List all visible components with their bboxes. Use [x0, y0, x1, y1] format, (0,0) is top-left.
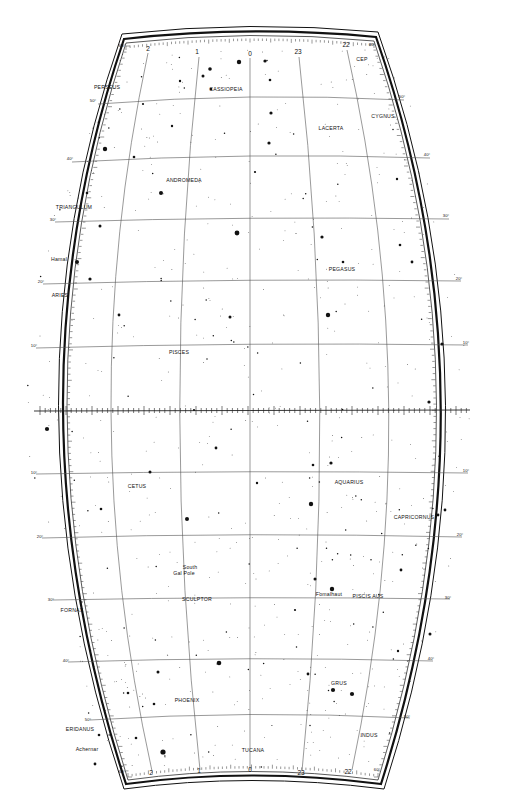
star: [230, 548, 231, 549]
star: [306, 748, 307, 749]
star: [469, 418, 470, 419]
star: [321, 84, 322, 85]
star: [137, 558, 138, 559]
star: [287, 556, 288, 557]
dec-label-right: 60°: [369, 42, 376, 47]
star: [381, 533, 383, 535]
star: [170, 300, 172, 302]
star: [341, 690, 342, 691]
star: [107, 567, 109, 569]
star: [149, 138, 150, 139]
constellation-label: ANDROMEDA: [166, 177, 202, 183]
star: [327, 281, 328, 282]
star: [312, 486, 313, 487]
star: [357, 287, 358, 288]
star: [171, 64, 172, 65]
star: [330, 737, 331, 738]
star: [108, 127, 110, 128]
star: [370, 559, 372, 561]
star: [391, 649, 392, 650]
star: [399, 509, 401, 511]
star: [298, 634, 299, 635]
star: [108, 521, 109, 522]
star: [104, 207, 105, 208]
dec-label-right: 30°: [445, 595, 452, 600]
star: [353, 589, 354, 590]
star: [249, 628, 250, 629]
star: [256, 482, 258, 484]
star: [412, 396, 413, 397]
star: [237, 278, 238, 279]
star: [116, 681, 117, 682]
star: [461, 439, 462, 440]
star: [141, 76, 143, 78]
star: [285, 103, 286, 104]
star: [235, 231, 240, 236]
star: [331, 688, 335, 692]
star: [397, 669, 398, 670]
star: [229, 316, 232, 319]
star: [272, 725, 273, 726]
dec-label-left: 60°: [119, 43, 126, 48]
constellation-label: INDUS: [360, 732, 377, 738]
star: [189, 642, 190, 643]
declination-grid: [34, 97, 470, 720]
star: [313, 219, 314, 220]
star: [230, 204, 231, 205]
star: [326, 201, 327, 202]
star: [394, 229, 395, 230]
star: [290, 684, 291, 685]
ra-labels: 21023222102322: [146, 41, 352, 776]
star: [404, 524, 405, 525]
star: [179, 92, 180, 93]
ra-label-bottom: 1: [197, 767, 201, 774]
dec-label-right: 40°: [424, 152, 431, 157]
star: [337, 183, 339, 185]
star: [90, 477, 91, 478]
star: [427, 400, 430, 403]
star: [257, 352, 259, 354]
star: [178, 448, 179, 449]
star: [372, 669, 373, 670]
star: [178, 318, 179, 319]
star: [170, 552, 171, 553]
star: [283, 315, 284, 316]
star: [309, 477, 311, 479]
star: [100, 461, 101, 462]
star: [282, 51, 283, 52]
star: [320, 297, 321, 298]
star: [221, 77, 222, 78]
star: [103, 147, 107, 151]
star: [353, 623, 355, 625]
star: [312, 626, 313, 627]
star: [160, 278, 162, 280]
star: [453, 491, 454, 492]
dec-label-left: 10°: [31, 343, 38, 348]
star: [118, 325, 119, 326]
star: [250, 326, 251, 327]
star: [421, 641, 422, 642]
star: [127, 396, 129, 398]
star: [309, 725, 311, 727]
star: [40, 276, 42, 278]
star: [121, 327, 122, 328]
star: [319, 750, 320, 751]
constellation-label: PHOENIX: [175, 697, 200, 703]
star: [209, 298, 210, 299]
star: [79, 636, 81, 638]
star: [233, 341, 235, 343]
star: [396, 154, 397, 155]
star: [298, 518, 299, 519]
star: [291, 193, 292, 194]
star: [379, 476, 380, 477]
star: [174, 249, 175, 250]
star: [91, 650, 92, 651]
star: [106, 631, 107, 632]
dec-label-right: 60°: [374, 767, 381, 772]
star: [168, 600, 169, 601]
star: [361, 437, 362, 438]
star: [230, 604, 231, 605]
star: [207, 443, 208, 444]
ra-label-top: 2: [146, 45, 150, 52]
star: [284, 315, 285, 316]
